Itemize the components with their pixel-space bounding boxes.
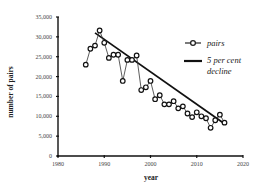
data-point [83,62,88,67]
legend-label-decline-1: 5 per cent [207,55,242,65]
data-point [148,79,153,84]
chart-canvas: 05,00010,00015,00020,00025,00030,00035,0… [0,0,258,192]
x-axis: 19801990200020102020 [52,155,249,167]
circle-marker-icon [191,41,196,46]
data-point [167,102,172,107]
y-tick-label: 0 [49,153,52,159]
data-point [134,53,139,58]
y-tick-label: 35,000 [36,14,53,20]
data-point [171,99,176,104]
data-point [204,116,209,121]
x-tick-label: 2000 [145,161,157,167]
y-tick-label: 25,000 [36,54,53,60]
data-point [162,102,167,107]
data-point [222,120,227,125]
x-tick-label: 1980 [52,161,64,167]
data-point [208,126,213,131]
data-point [97,28,102,33]
data-point [111,52,116,57]
x-axis-title: year [144,173,159,182]
data-point [116,52,121,57]
y-tick-label: 20,000 [36,74,53,80]
data-point [190,115,195,120]
legend-label-pairs: pairs [206,38,225,48]
x-tick-label: 1990 [98,161,110,167]
x-tick-label: 2020 [237,161,249,167]
data-point [213,118,218,123]
legend-item-pairs: pairs [185,38,225,48]
data-point [125,58,130,63]
data-point [185,111,190,116]
data-point [176,106,181,111]
data-point [139,88,144,93]
legend-item-decline: 5 per cent decline [184,55,242,76]
y-tick-label: 15,000 [36,93,53,99]
y-axis-title: number of pairs [6,66,15,118]
data-point [107,56,112,61]
legend: pairs 5 per cent decline [184,38,242,76]
data-point [93,43,98,48]
pairs-series [83,28,226,130]
data-point [153,97,158,102]
data-point [199,114,204,119]
y-tick-label: 10,000 [36,113,53,119]
data-point [88,46,93,51]
data-point [157,93,162,98]
y-tick-label: 5,000 [39,133,53,139]
data-point [194,110,199,115]
legend-label-decline-2: decline [207,66,232,76]
data-point [120,79,125,84]
trend-line-series [95,33,225,124]
data-point [102,41,107,46]
y-axis: 05,00010,00015,00020,00025,00030,00035,0… [36,14,60,159]
x-tick-label: 2010 [191,161,203,167]
y-tick-label: 30,000 [36,34,53,40]
data-point [218,112,223,117]
data-point [181,104,186,109]
data-point [144,85,149,90]
data-point [130,58,135,63]
